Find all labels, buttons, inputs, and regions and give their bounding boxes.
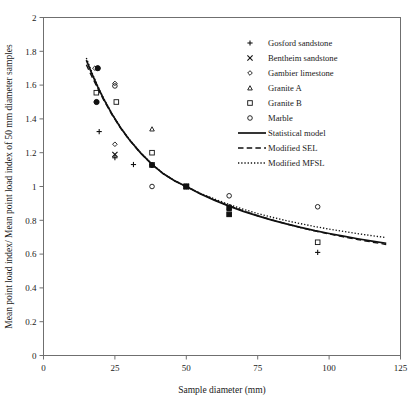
y-tick-label: 1.8 (25, 47, 37, 57)
cluster-19mm-lower (94, 99, 99, 104)
y-tick-label: 2 (32, 13, 37, 23)
square-icon (248, 101, 253, 106)
legend-label: Modified MFSL (268, 158, 325, 168)
legend-label: Gosford sandstone (268, 38, 332, 48)
legend-label: Statistical model (268, 128, 326, 138)
marker-square (114, 100, 119, 105)
square-icon (150, 150, 155, 155)
reference-point-50mm (184, 184, 189, 189)
cluster-19mm-upper (95, 66, 100, 71)
marker-square (248, 101, 253, 106)
marker-plus (315, 250, 320, 255)
x-tick-label: 75 (253, 363, 263, 373)
x-tick-label: 125 (394, 363, 408, 373)
model-line-dashed (86, 65, 386, 245)
marker-square (315, 240, 320, 245)
x-tick-label: 25 (110, 363, 120, 373)
y-tick-label: 1.6 (25, 80, 37, 90)
marker-circle (315, 204, 320, 209)
marker-triangle (150, 127, 155, 131)
legend-label: Granite A (268, 83, 302, 93)
x-tick-label: 50 (182, 363, 192, 373)
triangle-icon (150, 127, 155, 131)
marker-cross (247, 55, 252, 60)
x-axis-title: Sample diameter (mm) (178, 385, 266, 396)
marker-square (94, 90, 99, 95)
marker-circle (248, 116, 253, 121)
y-tick-label: 1.4 (25, 114, 37, 124)
point-load-size-effect-chart: 00.20.40.60.811.21.41.61.820255075100125… (0, 0, 418, 400)
y-tick-label: 1.2 (25, 148, 36, 158)
x-tick-label: 0 (41, 363, 46, 373)
legend-label: Modified SEL (268, 143, 317, 153)
cluster-65mm (227, 207, 231, 211)
y-tick-label: 0.8 (25, 216, 37, 226)
x-tick-label: 100 (322, 363, 336, 373)
square-icon (114, 100, 119, 105)
diamond-icon (248, 71, 253, 76)
marker-circle (227, 193, 232, 198)
marker-square (150, 150, 155, 155)
y-tick-label: 1 (32, 182, 37, 192)
triangle-icon (248, 86, 253, 90)
circle-icon (248, 116, 253, 121)
cluster-38mm (150, 162, 155, 167)
y-tick-label: 0 (32, 351, 37, 361)
square-icon (94, 90, 99, 95)
model-line-solid (86, 60, 386, 243)
legend-label: Gambier limestone (268, 68, 334, 78)
y-axis-title: Mean point load index/ Mean point load i… (4, 44, 14, 329)
circle-icon (315, 204, 320, 209)
legend-label: Bentheim sandstone (268, 53, 338, 63)
legend-label: Marble (268, 113, 293, 123)
marker-triangle (248, 86, 253, 90)
model-line-dotted (86, 58, 386, 237)
marker-diamond (248, 71, 253, 76)
square-icon (315, 240, 320, 245)
cluster-65mm-lower (227, 212, 231, 216)
marker-plus (247, 40, 252, 45)
legend-label: Granite B (268, 98, 302, 108)
marker-diamond (113, 142, 118, 147)
legend: Gosford sandstoneBentheim sandstoneGambi… (238, 38, 338, 168)
series-granite-a (150, 127, 232, 209)
y-tick-label: 0.2 (25, 317, 36, 327)
chart-canvas: 00.20.40.60.811.21.41.61.820255075100125… (0, 0, 418, 400)
marker-circle (150, 184, 155, 189)
circle-icon (227, 193, 232, 198)
series-bentheim-sandstone (112, 152, 231, 210)
marker-plus (131, 162, 136, 167)
marker-plus (97, 129, 102, 134)
circle-icon (150, 184, 155, 189)
y-tick-label: 0.4 (25, 283, 37, 293)
diamond-icon (113, 142, 118, 147)
y-tick-label: 0.6 (25, 249, 37, 259)
